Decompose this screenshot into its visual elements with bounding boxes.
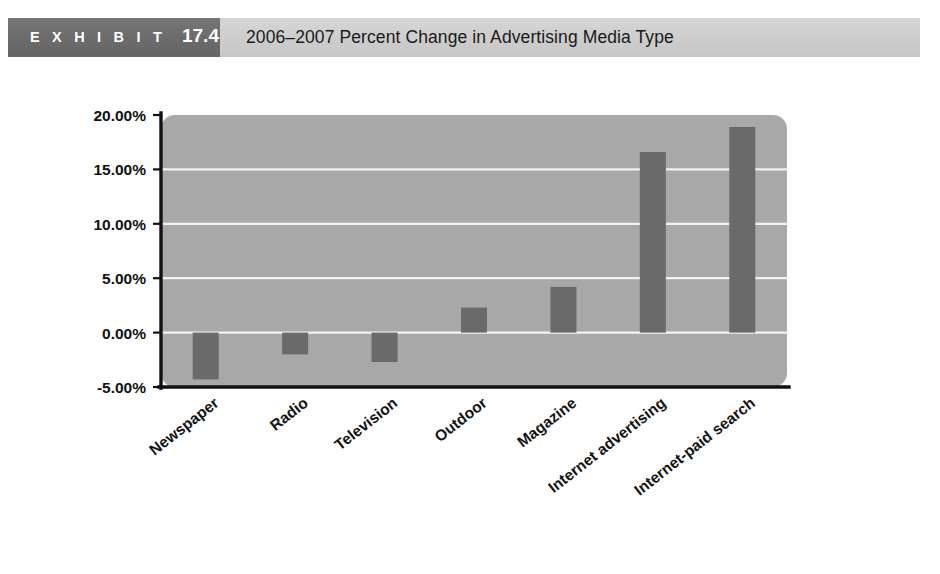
bar-internet-paid-search: Internet-paid search: 18.90%: [729, 127, 755, 333]
y-tick-label-10: 10.00%: [93, 216, 146, 233]
exhibit-header: E X H I B I T 17.4 2006–2007 Percent Cha…: [8, 18, 920, 57]
bar-chart: Newspaper: -4.30%Radio: -2.00%Television…: [0, 57, 940, 574]
bar-magazine: Magazine: 4.20%: [550, 287, 576, 333]
bar-internet-advertising: Internet advertising: 16.60%: [640, 152, 666, 333]
exhibit-label: E X H I B I T: [30, 30, 166, 45]
x-tick-label-radio: Radio: [267, 394, 311, 434]
x-axis-labels: NewspaperRadioTelevisionOutdoorMagazineI…: [146, 394, 758, 499]
y-tick-label-15: 15.00%: [93, 161, 146, 178]
y-axis-ticks: 20.00%15.00%10.00%5.00%0.00%-5.00%: [93, 107, 161, 396]
y-tick-label-0: 0.00%: [102, 325, 146, 342]
chart-canvas: Newspaper: -4.30%Radio: -2.00%Television…: [0, 57, 940, 574]
bar-newspaper: Newspaper: -4.30%: [193, 333, 219, 380]
y-tick-label--5: -5.00%: [97, 379, 146, 396]
exhibit-title: 2006–2007 Percent Change in Advertising …: [246, 29, 674, 47]
bar-radio: Radio: -2.00%: [282, 333, 308, 355]
exhibit-number: 17.4: [182, 26, 219, 45]
y-tick-label-5: 5.00%: [102, 270, 146, 287]
bar-outdoor: Outdoor: 2.30%: [461, 308, 487, 333]
plot-area-background: [161, 115, 787, 387]
exhibit-title-band: 2006–2007 Percent Change in Advertising …: [220, 18, 920, 57]
bar-television: Television: -2.70%: [372, 333, 398, 362]
x-tick-label-magazine: Magazine: [514, 394, 580, 451]
exhibit-tag: E X H I B I T 17.4: [8, 18, 220, 57]
x-tick-label-television: Television: [331, 394, 400, 453]
x-tick-label-outdoor: Outdoor: [431, 394, 490, 445]
y-tick-label-20: 20.00%: [93, 107, 146, 124]
x-tick-label-newspaper: Newspaper: [146, 394, 222, 458]
